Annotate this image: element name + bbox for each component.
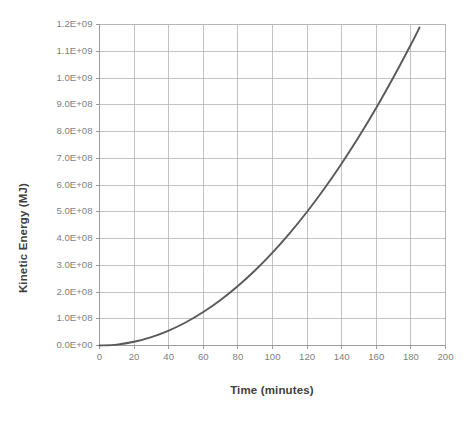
y-tick-label: 1.0E+08 [56,312,92,323]
y-tick-label: 0.0E+00 [56,339,92,350]
x-tick-label: 0 [97,351,102,362]
data-series [100,28,420,346]
y-tick-labels: 0.0E+001.0E+082.0E+083.0E+084.0E+085.0E+… [56,18,92,350]
x-tick-label: 20 [129,351,140,362]
tick-marks [96,25,446,350]
plot-area: 0.0E+001.0E+082.0E+083.0E+084.0E+085.0E+… [0,0,475,424]
x-tick-labels: 020406080100120140160180200 [97,351,454,362]
y-tick-label: 5.0E+08 [56,205,92,216]
x-tick-label: 200 [437,351,453,362]
y-tick-label: 6.0E+08 [56,179,92,190]
y-tick-label: 1.1E+09 [56,45,92,56]
y-tick-label: 1.2E+09 [56,18,92,29]
y-tick-label: 2.0E+08 [56,286,92,297]
y-tick-label: 7.0E+08 [56,152,92,163]
series-line [100,28,420,346]
x-tick-label: 100 [264,351,280,362]
y-tick-label: 9.0E+08 [56,98,92,109]
y-tick-label: 3.0E+08 [56,259,92,270]
x-tick-label: 180 [403,351,419,362]
x-tick-label: 140 [334,351,350,362]
x-tick-label: 60 [198,351,209,362]
x-tick-label: 80 [233,351,244,362]
x-tick-label: 40 [163,351,174,362]
line-chart: Kinetic Energy (MJ) Time (minutes) 0.0E+… [0,0,475,424]
y-tick-label: 1.0E+09 [56,72,92,83]
y-tick-label: 8.0E+08 [56,125,92,136]
x-tick-label: 120 [299,351,315,362]
y-tick-label: 4.0E+08 [56,232,92,243]
x-tick-label: 160 [368,351,384,362]
